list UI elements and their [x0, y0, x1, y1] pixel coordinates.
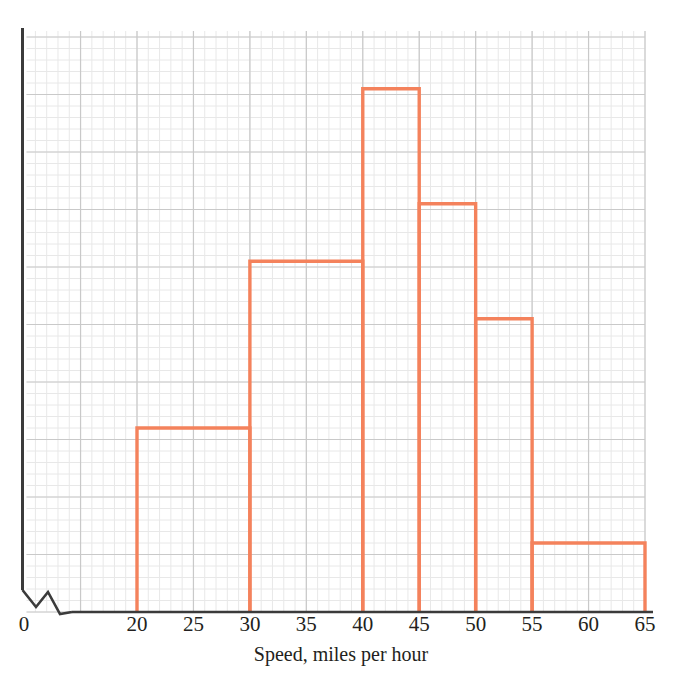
x-tick-label: 20	[127, 612, 148, 636]
x-tick-label: 45	[409, 612, 430, 636]
x-tick-label: 35	[296, 612, 317, 636]
x-tick-label: 40	[352, 612, 373, 636]
x-tick-label: 55	[522, 612, 543, 636]
x-tick-label: 65	[635, 612, 656, 636]
x-origin-label: 0	[19, 612, 30, 636]
x-tick-label: 25	[183, 612, 204, 636]
x-axis-title: Speed, miles per hour	[254, 643, 429, 666]
chart-svg: 20253035404550556065 0 Speed, miles per …	[0, 0, 681, 694]
x-tick-label: 50	[465, 612, 486, 636]
x-tick-label: 30	[239, 612, 260, 636]
histogram-chart: 20253035404550556065 0 Speed, miles per …	[0, 0, 681, 694]
x-tick-label: 60	[578, 612, 599, 636]
